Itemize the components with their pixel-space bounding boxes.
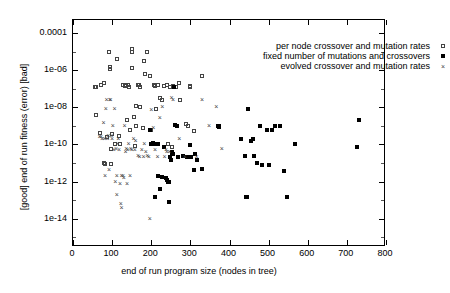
- data-point: [109, 162, 113, 166]
- x-tick-label-6: 600: [299, 249, 314, 258]
- data-point: ×: [159, 104, 165, 110]
- data-point: [188, 85, 192, 89]
- y-axis-title: [good] end of run fitness (error) [bad]: [19, 27, 29, 247]
- data-point: ×: [152, 147, 158, 153]
- legend-marker-open-square-icon: [430, 41, 450, 51]
- data-point: [273, 124, 277, 128]
- y-tick-label-0: 0.0001: [39, 27, 67, 36]
- data-point: [154, 107, 158, 111]
- x-axis-title: end of run program size (nodes in tree): [0, 266, 398, 276]
- data-point: [176, 155, 180, 159]
- data-point: ×: [111, 106, 117, 112]
- data-point: ×: [102, 173, 108, 179]
- data-point: [167, 180, 171, 184]
- data-point: ×: [124, 181, 130, 187]
- data-point: [177, 81, 181, 85]
- data-point: ×: [101, 120, 107, 126]
- data-point: [192, 168, 196, 172]
- data-point: [200, 167, 204, 171]
- data-point: ×: [116, 147, 122, 153]
- legend-label-1: fixed number of mutations and crossovers: [263, 51, 430, 61]
- legend-marker-filled-square-icon: [430, 51, 450, 61]
- data-point: [115, 57, 119, 61]
- data-point: ×: [155, 154, 161, 160]
- data-point: [138, 105, 142, 109]
- data-point: [200, 74, 204, 78]
- data-point: ×: [147, 216, 153, 222]
- data-point: ×: [122, 123, 128, 129]
- data-point: [160, 98, 164, 102]
- data-point: [255, 161, 259, 165]
- data-point: ×: [127, 173, 133, 179]
- data-point: [130, 50, 134, 54]
- data-point: [243, 154, 247, 158]
- data-point: [167, 200, 171, 204]
- data-point: [156, 83, 160, 87]
- data-point: [239, 137, 243, 141]
- data-point: [175, 124, 179, 128]
- x-tick-top-8: [386, 20, 387, 25]
- x-tick-label-7: 700: [338, 249, 353, 258]
- legend-item-2: evolved crossover and mutation rates×: [225, 61, 450, 71]
- data-point: [107, 50, 111, 54]
- data-point: [267, 163, 271, 167]
- data-point: ×: [133, 138, 139, 144]
- data-point: [134, 124, 138, 128]
- data-point: [355, 145, 359, 149]
- y-tick-label-3: 1e-10: [44, 139, 67, 148]
- data-point: ×: [206, 123, 212, 129]
- data-point: ×: [103, 106, 109, 112]
- data-point: [141, 126, 145, 130]
- data-point: [134, 104, 138, 108]
- data-point: [293, 142, 297, 146]
- data-point: ×: [170, 97, 176, 103]
- data-point: [142, 59, 146, 63]
- data-point: ×: [146, 154, 152, 160]
- data-point: [103, 162, 107, 166]
- legend-label-2: evolved crossover and mutation rates: [280, 61, 430, 71]
- data-point: [245, 195, 249, 199]
- data-point: [158, 187, 162, 191]
- data-point: ×: [106, 167, 112, 173]
- data-point: [265, 128, 269, 132]
- data-point: ×: [162, 154, 168, 160]
- data-point: ×: [141, 141, 147, 147]
- data-point: [186, 124, 190, 128]
- y-tick-label-5: 1e-14: [44, 213, 67, 222]
- y-tick-label-1: 1e-06: [44, 65, 67, 74]
- data-point: ×: [115, 136, 121, 142]
- legend-item-0: per node crossover and mutation rates: [225, 41, 450, 51]
- x-tick-label-4: 400: [221, 249, 236, 258]
- data-point: [148, 74, 152, 78]
- data-point: [178, 98, 182, 102]
- data-point: ×: [148, 107, 154, 113]
- data-point: [128, 128, 132, 132]
- data-point: [153, 195, 157, 199]
- chart-legend: per node crossover and mutation ratesfix…: [225, 40, 450, 73]
- y-tick-label-2: 1e-08: [44, 102, 67, 111]
- data-point: ×: [213, 104, 219, 110]
- data-point: [94, 85, 98, 89]
- data-point: [251, 137, 255, 141]
- data-point: [138, 85, 142, 89]
- data-point: [145, 50, 149, 54]
- data-point: ×: [219, 146, 225, 152]
- data-point: [108, 67, 112, 71]
- legend-marker-cross-icon: ×: [430, 61, 450, 71]
- data-point: [188, 143, 192, 147]
- data-point: [192, 129, 196, 133]
- y-tick-label-4: 1e-12: [44, 176, 67, 185]
- plot-frame: ××××××××××××××××××××××××××××××××××××××××…: [72, 19, 385, 246]
- data-point: [246, 107, 250, 111]
- data-point: ×: [176, 136, 182, 142]
- data-point: [252, 154, 256, 158]
- data-point: [130, 66, 134, 70]
- data-point: [282, 169, 286, 173]
- x-tick-label-8: 800: [377, 249, 392, 258]
- legend-label-0: per node crossover and mutation rates: [276, 41, 430, 51]
- data-point: [258, 124, 262, 128]
- data-point: ×: [117, 181, 123, 187]
- data-point: ×: [199, 97, 205, 103]
- data-point: [217, 125, 221, 129]
